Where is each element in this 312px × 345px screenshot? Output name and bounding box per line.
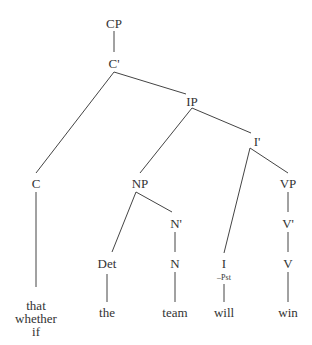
node-v-bar: V' — [282, 217, 294, 230]
node-n: N — [170, 257, 179, 270]
branch-np-nbar — [136, 192, 172, 212]
leaf-win: win — [278, 306, 298, 319]
node-i-bar: I' — [254, 135, 261, 148]
leaf-complementizers: that whether if — [15, 299, 57, 338]
branch-ip-ibar — [192, 108, 251, 133]
node-v: V — [283, 257, 292, 270]
node-n-bar: N' — [170, 217, 182, 230]
leaf-if: if — [15, 325, 57, 338]
node-np: NP — [132, 177, 149, 190]
branch-cbar-ip — [114, 72, 186, 94]
node-i: I — [222, 257, 226, 270]
branch-ip-np — [140, 108, 192, 173]
leaf-the: the — [99, 306, 115, 319]
branch-ibar-vp — [250, 148, 288, 173]
branch-cbar-c — [36, 72, 114, 173]
node-det: Det — [98, 257, 117, 270]
tree-branches — [0, 0, 312, 345]
node-i-feature: –Pst — [217, 273, 231, 282]
branch-ibar-i — [224, 148, 250, 253]
node-cp: CP — [106, 17, 122, 30]
node-ip: IP — [186, 95, 198, 108]
leaf-will: will — [214, 306, 234, 319]
node-vp: VP — [280, 177, 297, 190]
node-c: C — [32, 177, 41, 190]
branch-np-det — [112, 192, 136, 252]
leaf-team: team — [162, 306, 187, 319]
node-c-bar: C' — [108, 57, 119, 70]
